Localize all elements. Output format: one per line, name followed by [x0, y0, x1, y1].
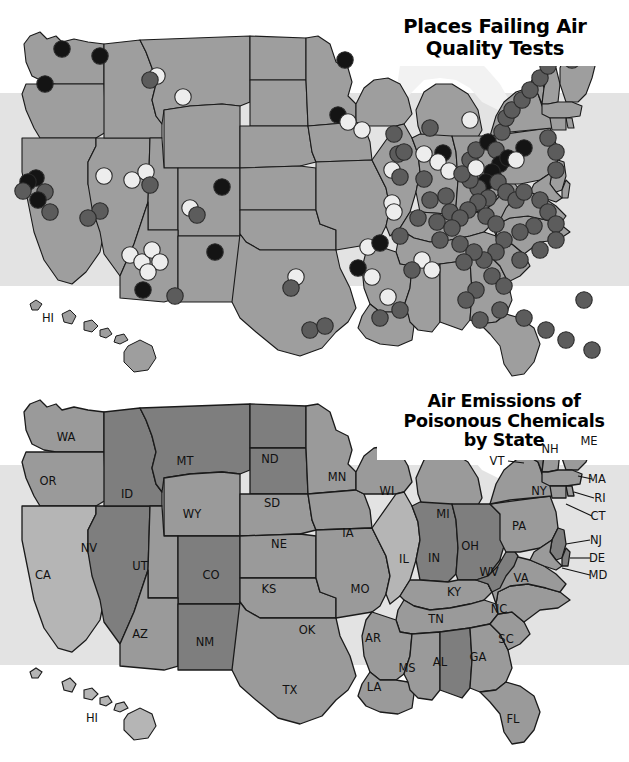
failing-site-dot [432, 232, 448, 248]
state-label-ks: KS [262, 582, 277, 596]
failing-site-dot [422, 192, 438, 208]
failing-site-dot [372, 235, 388, 251]
state-leader-line-5 [566, 540, 590, 544]
state-label-ne: NE [271, 537, 287, 551]
failing-site-dot [364, 269, 380, 285]
state-label-ny: NY [531, 484, 547, 498]
state-label-id: ID [121, 487, 133, 501]
top-state-ne [240, 126, 316, 168]
failing-site-dot [444, 220, 460, 236]
failing-site-dot [392, 169, 408, 185]
state-label-il: IL [399, 552, 409, 566]
state-label-ri: RI [594, 491, 605, 505]
state-label-al: AL [433, 655, 447, 669]
state-ct [550, 486, 566, 498]
failing-site-dot [429, 214, 445, 230]
state-label-wa: WA [57, 430, 76, 444]
failing-site-dot [380, 289, 396, 305]
state-ma [542, 470, 582, 486]
failing-site-dot [508, 152, 524, 168]
failing-site-dot [302, 322, 318, 338]
top-state-fl [480, 314, 540, 376]
state-ia [308, 490, 372, 530]
hawaii-island-1 [62, 678, 76, 692]
failing-site-dot [92, 48, 108, 64]
state-label-az: AZ [132, 627, 148, 641]
state-label-tx: TX [283, 683, 298, 697]
state-label-ok: OK [299, 623, 316, 637]
failing-site-dot [386, 126, 402, 142]
state-nd [250, 404, 306, 448]
state-label-ia: IA [342, 526, 353, 540]
state-label-wv: WV [479, 565, 498, 579]
failing-site-dot [468, 160, 484, 176]
state-wy [164, 472, 240, 536]
failing-site-dot [140, 264, 156, 280]
top-hawaii-island-0 [30, 300, 42, 310]
state-label-nm: NM [196, 635, 215, 649]
failing-site-dot [80, 210, 96, 226]
failing-site-dot [584, 342, 600, 358]
top-hawaii-island-2 [84, 320, 98, 332]
failing-site-dot [532, 242, 548, 258]
state-label-mn: MN [328, 470, 347, 484]
state-label-nd: ND [261, 452, 278, 466]
failing-site-dot [283, 280, 299, 296]
failing-site-dot [576, 292, 592, 308]
state-label-nv: NV [81, 541, 97, 555]
failing-site-dot [135, 282, 151, 298]
state-label-ma: MA [588, 472, 606, 486]
state-tx [232, 602, 356, 724]
state-label-ca: CA [35, 568, 51, 582]
failing-site-dot [30, 192, 46, 208]
state-label-sc: SC [498, 632, 513, 646]
failing-site-dot [456, 254, 472, 270]
failing-site-dot [337, 52, 353, 68]
failing-site-dot [512, 224, 528, 240]
state-label-in: IN [428, 551, 440, 565]
failing-site-dot [142, 72, 158, 88]
state-label-fl: FL [506, 712, 519, 726]
top-state-ma [542, 102, 582, 118]
state-label-vt: VT [490, 454, 505, 468]
page-title-top: Places Failing Air Quality Tests [375, 16, 615, 60]
failing-site-dot [37, 76, 53, 92]
failing-site-dot [416, 171, 432, 187]
failing-site-dot [492, 302, 508, 318]
failing-site-dot [15, 183, 31, 199]
failing-site-dot [396, 144, 412, 160]
failing-site-dot [354, 122, 370, 138]
state-label-co: CO [202, 568, 219, 582]
state-leader-line-3 [574, 492, 594, 498]
hawaii-island-2 [84, 688, 98, 700]
hawaii-label-top: HI [42, 311, 54, 325]
failing-site-dot [386, 204, 402, 220]
failing-site-dot [462, 112, 478, 128]
state-label-ky: KY [447, 585, 461, 599]
state-label-ct: CT [590, 509, 605, 523]
failing-site-dot [410, 210, 426, 226]
state-label-ar: AR [365, 631, 381, 645]
failing-site-dot [372, 310, 388, 326]
hawaii-island-4 [114, 702, 128, 712]
failing-site-dot [538, 322, 554, 338]
state-label-ms: MS [398, 661, 415, 675]
top-state-or [22, 84, 106, 138]
state-label-tn: TN [428, 612, 444, 626]
state-label-va: VA [514, 571, 529, 585]
failing-site-dot [96, 168, 112, 184]
state-label-md: MD [589, 568, 608, 582]
failing-site-dot [167, 288, 183, 304]
failing-site-dot [438, 188, 454, 204]
failing-site-dot [516, 310, 532, 326]
state-leader-line-4 [566, 504, 592, 516]
top-hawaii-island-4 [114, 334, 128, 344]
top-state-sd [250, 80, 308, 126]
failing-site-dot [488, 216, 504, 232]
failing-site-dot [392, 228, 408, 244]
top-hawaii-island-1 [62, 310, 76, 324]
state-label-ut: UT [132, 559, 147, 573]
failing-site-dot [512, 252, 528, 268]
state-label-nh: NH [541, 442, 558, 456]
figure-page: Places Failing Air Quality Tests Air Emi… [0, 0, 629, 762]
